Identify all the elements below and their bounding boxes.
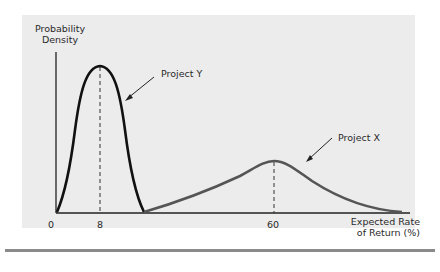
x-axis-label-line2: of Return (%) (350, 227, 420, 238)
arrow-project-x (306, 138, 332, 162)
y-axis-label: Probability Density (30, 23, 90, 45)
curve-project-x (144, 161, 402, 212)
bottom-rule (5, 249, 435, 252)
annotation-project-x: Project X (338, 132, 380, 143)
x-tick-0: 0 (48, 219, 54, 230)
y-axis-label-line1: Probability (30, 23, 90, 34)
x-axis-label: Expected Rate of Return (%) (350, 216, 420, 238)
arrow-project-y (125, 77, 154, 101)
x-tick-60: 60 (267, 219, 279, 230)
x-tick-8: 8 (97, 219, 103, 230)
y-axis-label-line2: Density (30, 34, 90, 45)
annotation-project-y: Project Y (161, 68, 202, 79)
x-axis-label-line1: Expected Rate (350, 216, 420, 227)
